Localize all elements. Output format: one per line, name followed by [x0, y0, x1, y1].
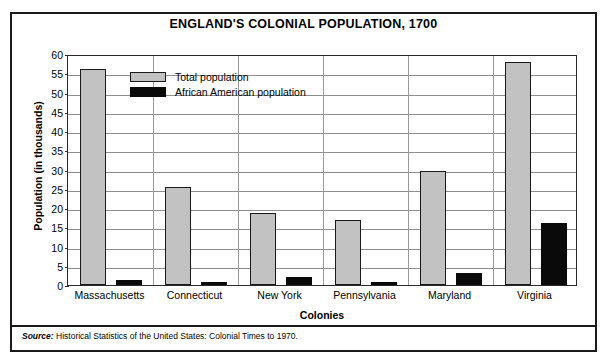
bar-total-population	[335, 220, 361, 285]
x-axis-tick-label: Massachusetts	[74, 289, 144, 301]
bar-african-american-population	[541, 223, 567, 285]
y-axis-tick-label: 25	[37, 184, 63, 196]
y-axis-tick-labels: 051015202530354045505560	[35, 55, 63, 286]
bar-african-american-population	[456, 273, 482, 285]
gridline	[68, 133, 576, 134]
y-axis-tick-label: 35	[37, 145, 63, 157]
x-axis-tick-labels: MassachusettsConnecticutNew YorkPennsylv…	[67, 289, 577, 305]
y-axis-tick-label: 50	[37, 88, 63, 100]
legend-label-african-american: African American population	[175, 86, 306, 98]
x-axis-tick-label: Pennsylvania	[333, 289, 395, 301]
x-axis-title: Colonies	[67, 309, 577, 321]
gridline	[68, 152, 576, 153]
bar-african-american-population	[201, 282, 227, 285]
gridline	[68, 268, 576, 269]
y-axis-tick-label: 20	[37, 203, 63, 215]
y-axis-tick-label: 30	[37, 165, 63, 177]
source-note: Source: Historical Statistics of the Uni…	[22, 331, 298, 341]
category-separator	[323, 56, 324, 285]
bar-total-population	[250, 213, 276, 285]
gridline	[68, 210, 576, 211]
y-axis-tickmark	[65, 286, 69, 287]
legend-item-total: Total population	[130, 70, 306, 83]
x-axis-tick-label: New York	[257, 289, 301, 301]
legend-swatch-total-icon	[130, 72, 166, 82]
chart-figure: ENGLAND'S COLONIAL POPULATION, 1700 Popu…	[0, 0, 608, 364]
y-axis-tick-label: 0	[37, 280, 63, 292]
bar-african-american-population	[286, 277, 312, 285]
source-divider	[12, 325, 595, 327]
category-separator	[408, 56, 409, 285]
bar-african-american-population	[371, 282, 397, 285]
y-axis-tick-label: 55	[37, 68, 63, 80]
gridline	[68, 191, 576, 192]
legend-item-african-american: African American population	[130, 85, 306, 98]
y-axis-tick-label: 15	[37, 222, 63, 234]
category-separator	[493, 56, 494, 285]
y-axis-tick-label: 5	[37, 261, 63, 273]
gridline	[68, 172, 576, 173]
gridline	[68, 229, 576, 230]
y-axis-tick-label: 60	[37, 49, 63, 61]
x-axis-tick-label: Virginia	[517, 289, 552, 301]
bar-african-american-population	[116, 280, 142, 285]
x-axis-tick-label: Maryland	[428, 289, 471, 301]
chart-legend: Total population African American popula…	[130, 70, 306, 100]
source-label: Source:	[22, 331, 54, 341]
legend-swatch-african-american-icon	[130, 87, 166, 97]
legend-label-total: Total population	[175, 71, 249, 83]
bar-total-population	[165, 187, 191, 285]
source-text: Historical Statistics of the United Stat…	[56, 331, 298, 341]
bar-total-population	[420, 171, 446, 285]
y-axis-tick-label: 45	[37, 107, 63, 119]
bar-total-population	[505, 62, 531, 285]
gridline	[68, 249, 576, 250]
chart-title: ENGLAND'S COLONIAL POPULATION, 1700	[12, 17, 595, 31]
x-axis-tick-label: Connecticut	[167, 289, 222, 301]
gridline	[68, 114, 576, 115]
y-axis-tick-label: 40	[37, 126, 63, 138]
bar-total-population	[80, 69, 106, 285]
y-axis-tick-label: 10	[37, 242, 63, 254]
